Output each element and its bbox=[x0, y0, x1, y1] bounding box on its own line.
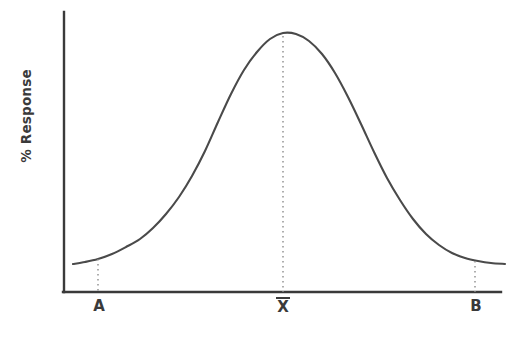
bell-curve-path bbox=[73, 33, 505, 264]
x-tick-label-b: B bbox=[462, 299, 490, 314]
x-tick-label-mean: X bbox=[268, 299, 298, 315]
x-tick-label-a: A bbox=[85, 299, 113, 314]
distribution-chart-figure: % Response A X B bbox=[0, 0, 521, 340]
plot-area bbox=[0, 0, 521, 340]
x-tick-label-mean-text: X bbox=[277, 299, 289, 315]
